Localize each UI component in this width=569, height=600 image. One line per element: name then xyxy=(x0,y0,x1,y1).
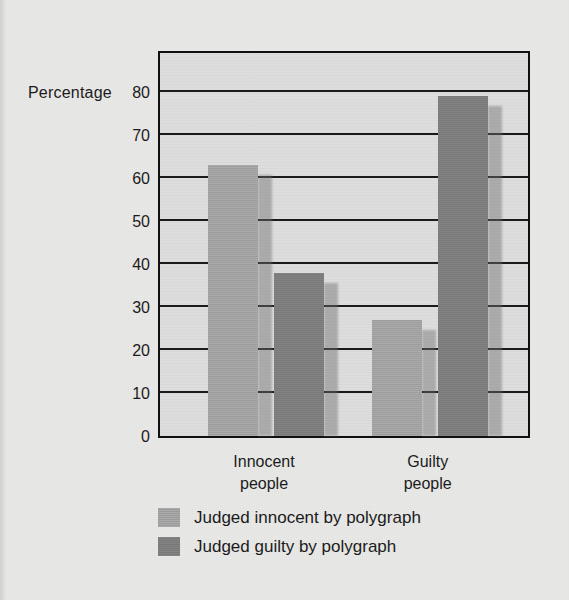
y-axis-tick-label: 20 xyxy=(110,342,150,360)
y-axis-tick-label: 30 xyxy=(110,299,150,317)
bar xyxy=(208,165,258,436)
x-axis-category-label: Innocentpeople xyxy=(184,451,344,495)
y-axis-tick-label: 80 xyxy=(110,84,150,102)
x-axis-category-label-line: Guilty xyxy=(348,451,508,473)
legend-swatch-icon xyxy=(158,537,180,556)
x-axis-category-label-line: people xyxy=(348,473,508,495)
legend-item-label: Judged guilty by polygraph xyxy=(194,537,396,557)
bar-face xyxy=(208,165,258,436)
bar-shadow xyxy=(488,106,502,436)
bar-face xyxy=(438,96,488,436)
bar-face xyxy=(274,273,324,436)
legend-swatch-icon xyxy=(158,508,180,527)
y-axis-title: Percentage xyxy=(28,84,112,102)
x-axis-category-label-line: Innocent xyxy=(184,451,344,473)
y-axis-tick-label: 60 xyxy=(110,170,150,188)
bar-shadow xyxy=(324,283,338,436)
bar xyxy=(438,96,488,436)
chart-page: Percentage 01020304050607080 Innocentpeo… xyxy=(0,0,569,600)
x-axis-category-label: Guiltypeople xyxy=(348,451,508,495)
plot-area xyxy=(158,51,530,438)
y-axis-tick-label: 0 xyxy=(110,428,150,446)
bar xyxy=(274,273,324,436)
bar-shadow xyxy=(258,175,272,436)
bar-face xyxy=(372,320,422,436)
page-edge xyxy=(0,0,6,600)
y-axis-tick-label: 50 xyxy=(110,213,150,231)
legend-item[interactable]: Judged guilty by polygraph xyxy=(158,532,498,561)
y-axis-tick-label: 40 xyxy=(110,256,150,274)
bar xyxy=(372,320,422,436)
gridline xyxy=(160,90,528,92)
legend-item[interactable]: Judged innocent by polygraph xyxy=(158,503,498,532)
bar-shadow xyxy=(422,330,436,436)
legend: Judged innocent by polygraph Judged guil… xyxy=(158,503,498,561)
legend-item-label: Judged innocent by polygraph xyxy=(194,508,421,528)
x-axis-category-label-line: people xyxy=(184,473,344,495)
y-axis-tick-label: 70 xyxy=(110,127,150,145)
y-axis-tick-label: 10 xyxy=(110,385,150,403)
